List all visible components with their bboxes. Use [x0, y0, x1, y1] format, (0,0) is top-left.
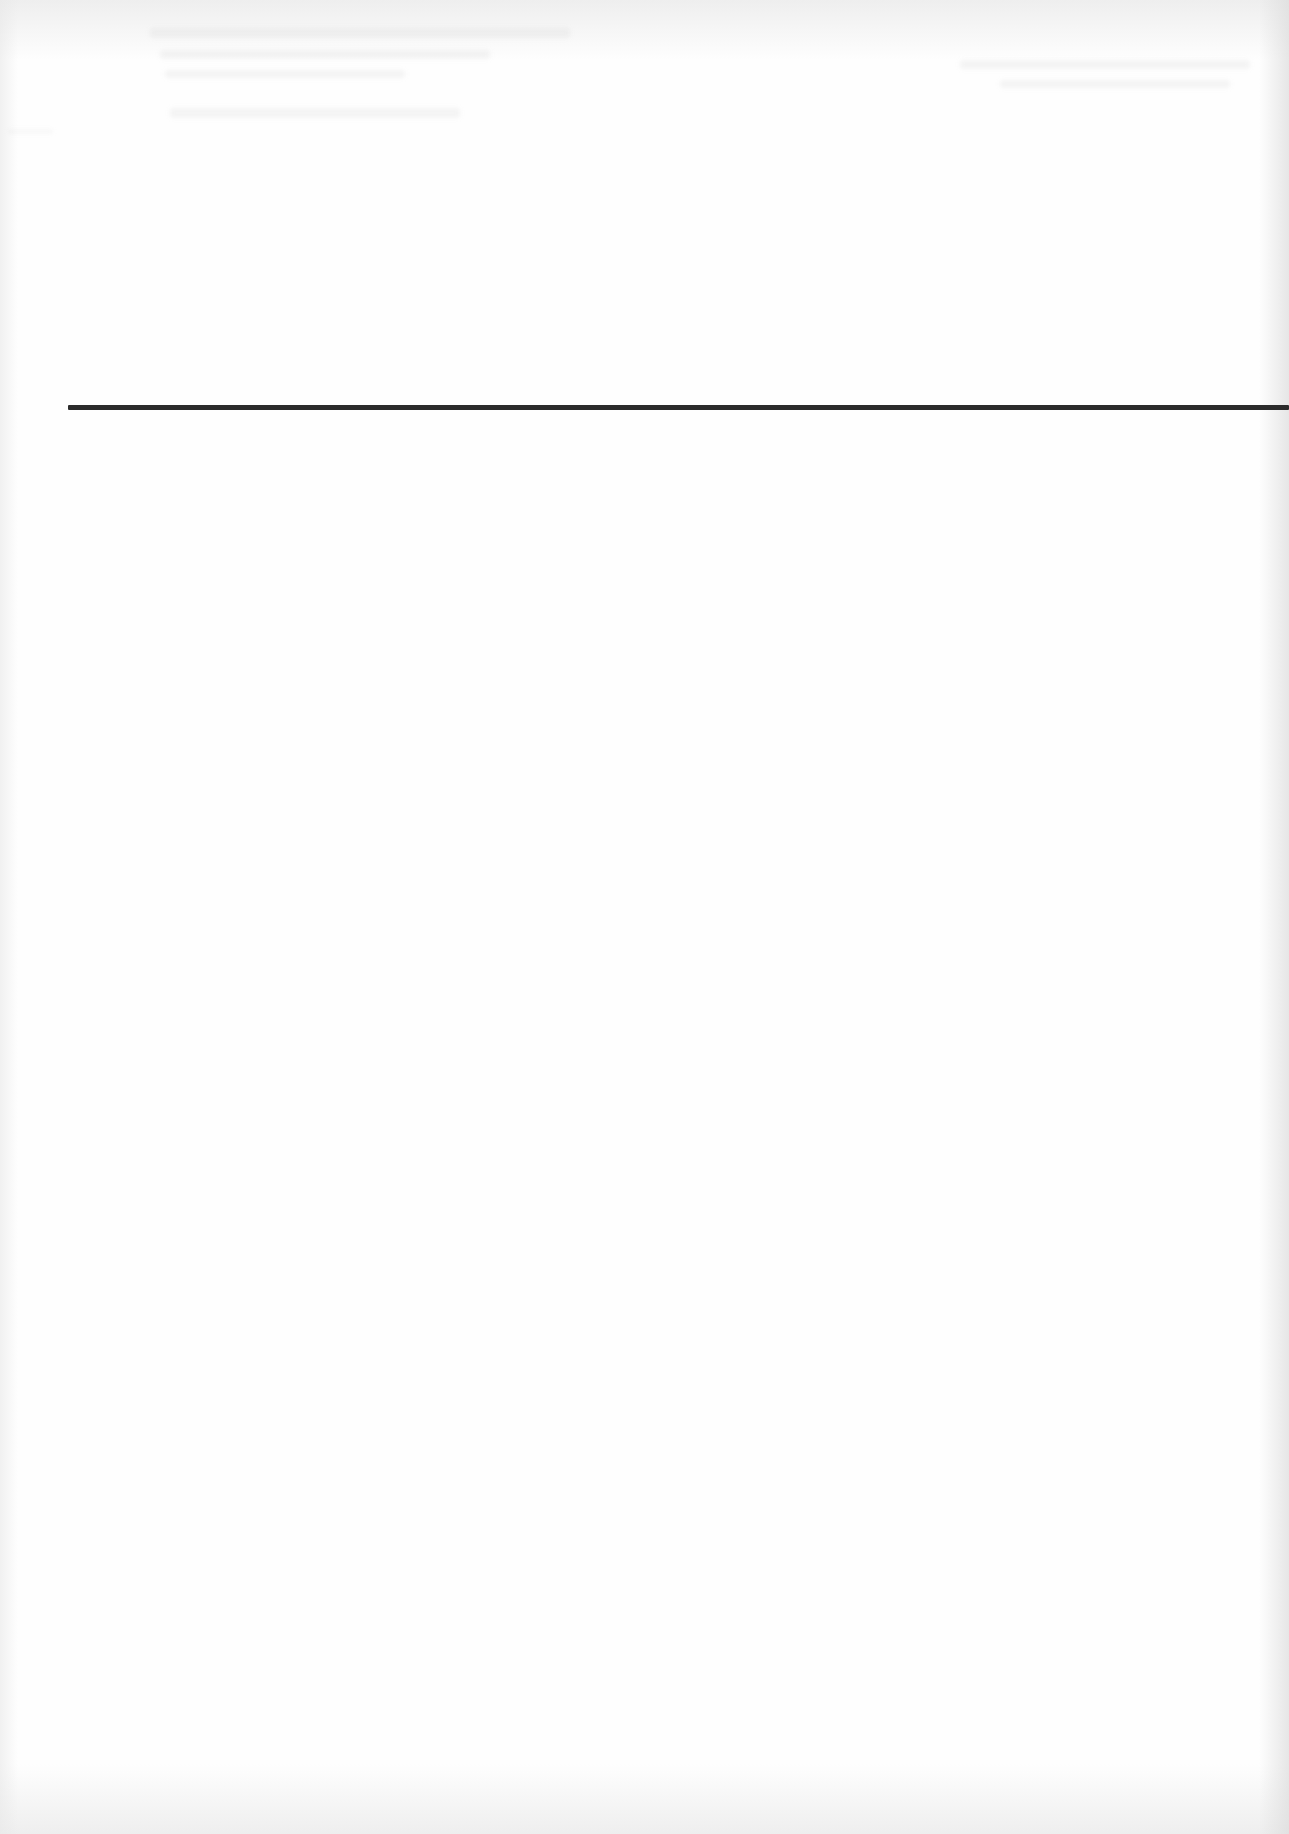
bleed-through-smudge	[165, 70, 405, 78]
horizontal-rule	[68, 405, 1289, 410]
scanned-page	[0, 0, 1289, 1834]
bleed-through-smudge	[8, 130, 53, 133]
bleed-through-smudge	[170, 108, 460, 118]
bleed-through-smudge	[960, 60, 1250, 69]
scan-shadow-right	[1259, 0, 1289, 1834]
bleed-through-smudge	[1000, 80, 1230, 88]
bleed-through-smudge	[160, 50, 490, 59]
scan-shadow-bottom	[0, 1764, 1289, 1834]
scan-shadow-left	[0, 0, 18, 1834]
bleed-through-smudge	[150, 28, 570, 38]
